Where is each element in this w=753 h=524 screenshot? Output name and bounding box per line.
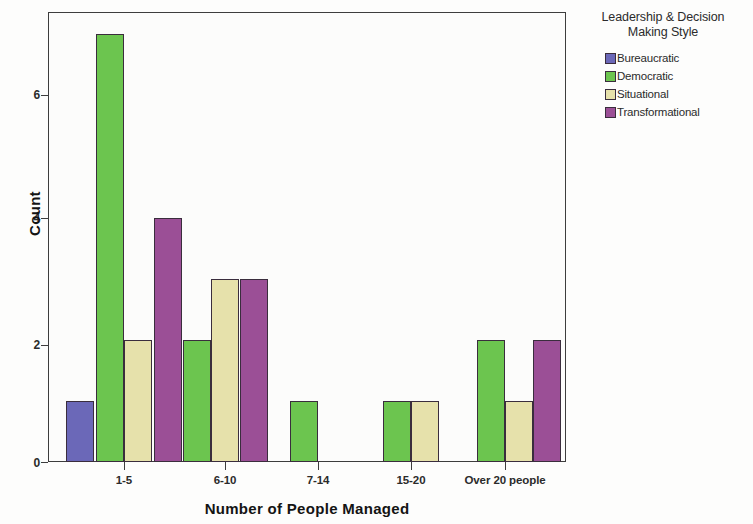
bar-democratic-15-20 xyxy=(383,401,411,462)
legend-swatch-bureaucratic xyxy=(605,53,616,64)
legend-label-transformational: Transformational xyxy=(617,106,700,118)
bar-situational-15-20 xyxy=(411,401,439,462)
legend-title-line-2: Making Style xyxy=(578,25,748,40)
y-tick-mark-6 xyxy=(41,95,48,96)
y-axis-title: Count xyxy=(26,174,43,254)
legend-title: Leadership & Decision Making Style xyxy=(578,10,748,40)
legend-swatch-situational xyxy=(605,89,616,100)
bar-situational-6-10 xyxy=(211,279,239,462)
legend-item-democratic[interactable]: Democratic xyxy=(605,68,753,84)
bar-transformational-1-5 xyxy=(154,218,182,462)
legend-items: Bureaucratic Democratic Situational Tran… xyxy=(605,50,753,120)
y-tick-mark-2 xyxy=(41,345,48,346)
legend-label-bureaucratic: Bureaucratic xyxy=(617,52,679,64)
bar-bureaucratic-1-5 xyxy=(66,401,94,462)
x-tick-mark-6-10 xyxy=(225,462,226,470)
y-tick-mark-0 xyxy=(41,462,48,463)
bar-democratic-1-5 xyxy=(96,34,124,462)
legend-item-transformational[interactable]: Transformational xyxy=(605,104,753,120)
y-tick-label-2: 2 xyxy=(20,338,40,352)
x-tick-label-15-20: 15-20 xyxy=(366,474,456,486)
x-tick-mark-over-20 xyxy=(505,462,506,470)
y-tick-label-6: 6 xyxy=(20,88,40,102)
bar-transformational-over-20 xyxy=(533,340,561,462)
bar-democratic-7-14 xyxy=(290,401,318,462)
bar-transformational-6-10 xyxy=(240,279,268,462)
legend: Leadership & Decision Making Style Burea… xyxy=(578,10,753,122)
x-tick-label-over-20: Over 20 people xyxy=(447,474,563,486)
chart-page: 0 2 4 6 Count 1-5 6-10 xyxy=(0,0,753,524)
x-tick-mark-1-5 xyxy=(124,462,125,470)
legend-item-bureaucratic[interactable]: Bureaucratic xyxy=(605,50,753,66)
legend-swatch-transformational xyxy=(605,107,616,118)
legend-title-line-1: Leadership & Decision xyxy=(578,10,748,25)
y-tick-label-0: 0 xyxy=(20,456,40,470)
bar-democratic-6-10 xyxy=(183,340,211,462)
legend-label-situational: Situational xyxy=(617,88,669,100)
x-tick-mark-15-20 xyxy=(411,462,412,470)
x-tick-label-7-14: 7-14 xyxy=(273,474,363,486)
bar-situational-over-20 xyxy=(505,401,533,462)
legend-item-situational[interactable]: Situational xyxy=(605,86,753,102)
x-tick-label-6-10: 6-10 xyxy=(180,474,270,486)
legend-label-democratic: Democratic xyxy=(617,70,673,82)
legend-swatch-democratic xyxy=(605,71,616,82)
x-tick-label-1-5: 1-5 xyxy=(79,474,169,486)
x-tick-mark-7-14 xyxy=(318,462,319,470)
x-axis-title: Number of People Managed xyxy=(48,500,566,517)
bar-situational-1-5 xyxy=(124,340,152,462)
bar-democratic-over-20 xyxy=(477,340,505,462)
